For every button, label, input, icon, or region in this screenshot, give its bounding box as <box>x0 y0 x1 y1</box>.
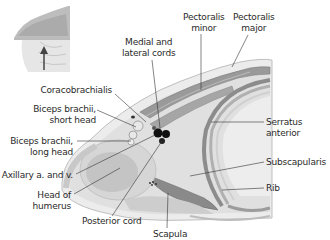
label-rib: Rib <box>266 183 280 194</box>
label-head-of-humerus: Head of humerus <box>33 190 71 211</box>
label-medial-lateral-cords: Medial and lateral cords <box>122 37 175 58</box>
label-pectoralis-major: Pectoralis major <box>233 12 275 33</box>
axilla-cross-section-diagram: Pectoralis minor Pectoralis major Medial… <box>0 0 330 240</box>
label-serratus-anterior: Serratus anterior <box>266 117 302 138</box>
label-biceps-long-head: Biceps brachii, long head <box>10 136 73 157</box>
label-axillary-artery-vein: Axillary a. and v. <box>2 170 73 181</box>
label-biceps-short-head: Biceps brachii, short head <box>33 104 96 125</box>
label-coracobrachialis: Coracobrachialis <box>40 85 112 96</box>
label-subscapularis: Subscapularis <box>266 157 326 168</box>
label-scapula: Scapula <box>153 229 187 240</box>
orientation-inset <box>12 5 70 72</box>
cross-section <box>62 59 272 220</box>
label-posterior-cord: Posterior cord <box>82 216 142 227</box>
label-pectoralis-minor: Pectoralis minor <box>183 12 225 33</box>
